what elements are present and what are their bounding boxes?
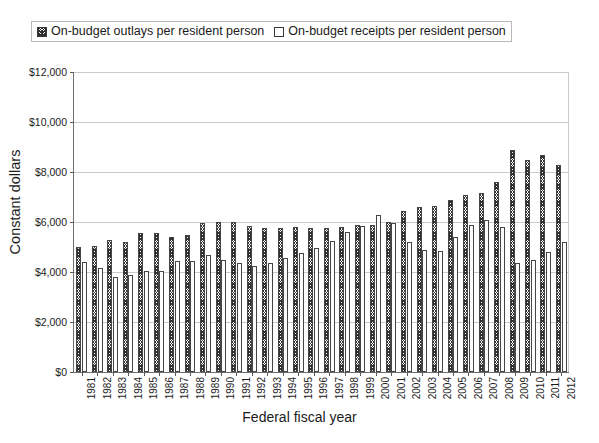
x-axis-tick (422, 372, 423, 376)
x-axis-tick (360, 372, 361, 376)
x-axis-tick-label: 1996 (318, 377, 329, 399)
bar-outlays (216, 222, 221, 372)
y-axis-tick-label: $10,000 (29, 116, 67, 128)
bar-outlays (278, 228, 283, 372)
chart-legend: On-budget outlays per resident person On… (31, 21, 512, 42)
x-axis-tick-label: 2007 (488, 377, 499, 399)
y-axis-tick-label: $4,000 (35, 266, 67, 278)
x-axis-tick-label: 1995 (303, 377, 314, 399)
y-axis-title: Constant dollars (4, 0, 26, 443)
bar-receipts (562, 242, 567, 372)
bar-outlays (417, 207, 422, 372)
bar-receipts (330, 241, 335, 372)
bar-receipts (391, 223, 396, 372)
x-axis-tick-label: 2006 (473, 377, 484, 399)
bar-outlays (107, 240, 112, 373)
x-axis-tick-label: 2011 (550, 377, 561, 399)
bar-receipts (531, 260, 536, 373)
x-axis-tick (407, 372, 408, 376)
bar-receipts (453, 237, 458, 372)
x-axis-tick (468, 372, 469, 376)
x-axis-tick-label: 2009 (519, 377, 530, 399)
legend-item-receipts: On-budget receipts per resident person (274, 25, 506, 38)
x-axis-tick-label: 1992 (256, 377, 267, 399)
x-axis-title: Federal fiscal year (0, 409, 599, 425)
bar-outlays (510, 150, 515, 373)
y-axis-tick (70, 222, 74, 223)
bar-outlays (293, 227, 298, 372)
hatch-swatch-icon (37, 27, 47, 37)
bar-receipts (546, 252, 551, 372)
x-axis-tick (298, 372, 299, 376)
bar-outlays (123, 242, 128, 372)
x-axis-tick-label: 2008 (504, 377, 515, 399)
y-axis-tick-label: $8,000 (35, 166, 67, 178)
x-axis-tick (236, 372, 237, 376)
bar-outlays (169, 237, 174, 372)
bar-receipts (283, 258, 288, 372)
x-axis-tick-label: 2001 (396, 377, 407, 399)
y-axis-tick-label: $0 (55, 366, 67, 378)
y-axis-tick (70, 272, 74, 273)
bar-receipts (98, 268, 103, 372)
x-axis-tick-label: 2002 (411, 377, 422, 399)
bar-outlays (479, 193, 484, 372)
y-axis-tick-label: $12,000 (29, 66, 67, 78)
bar-outlays (355, 225, 360, 373)
gridline (74, 122, 569, 123)
x-axis-tick-label: 1991 (241, 377, 252, 399)
x-axis-tick (345, 372, 346, 376)
x-axis-tick-label: 1998 (349, 377, 360, 399)
bar-receipts (144, 271, 149, 372)
bar-receipts (252, 266, 257, 372)
x-axis-tick (376, 372, 377, 376)
bar-receipts (82, 262, 87, 372)
x-axis-tick (175, 372, 176, 376)
x-axis-tick-label: 1990 (225, 377, 236, 399)
x-axis-tick-label: 1993 (272, 377, 283, 399)
bar-receipts (221, 260, 226, 373)
bar-chart: On-budget outlays per resident person On… (0, 0, 599, 443)
bar-outlays (92, 246, 97, 372)
x-axis-tick-label: 2010 (535, 377, 546, 399)
legend-label-receipts: On-budget receipts per resident person (288, 25, 506, 38)
bar-outlays (339, 227, 344, 372)
x-axis-tick-label: 2000 (380, 377, 391, 399)
x-axis-tick (484, 372, 485, 376)
x-axis-tick (561, 372, 562, 376)
x-axis-tick (546, 372, 547, 376)
empty-swatch-icon (274, 27, 284, 37)
x-axis-tick (438, 372, 439, 376)
x-axis-tick-label: 1988 (195, 377, 206, 399)
bar-outlays (463, 195, 468, 373)
y-axis-tick (70, 72, 74, 73)
x-axis-tick-label: 1999 (365, 377, 376, 399)
x-axis-tick-label: 1983 (117, 377, 128, 399)
bar-outlays (185, 235, 190, 373)
bar-outlays (76, 247, 81, 372)
bar-outlays (262, 228, 267, 372)
bar-outlays (154, 233, 159, 372)
y-axis-tick (70, 322, 74, 323)
x-axis-tick-label: 1997 (334, 377, 345, 399)
bar-receipts (113, 277, 118, 372)
x-axis-tick (499, 372, 500, 376)
bar-outlays (525, 160, 530, 373)
x-axis-tick (267, 372, 268, 376)
bar-receipts (469, 225, 474, 373)
plot-area: $0$2,000$4,000$6,000$8,000$10,000$12,000… (73, 72, 569, 373)
bar-outlays (448, 200, 453, 373)
gridline (74, 72, 569, 73)
x-axis-tick-label: 2005 (457, 377, 468, 399)
x-axis-tick (530, 372, 531, 376)
bar-outlays (401, 211, 406, 372)
x-axis-tick-label: 1986 (164, 377, 175, 399)
bar-receipts (128, 275, 133, 373)
x-axis-tick (128, 372, 129, 376)
bar-outlays (231, 222, 236, 372)
bar-outlays (370, 225, 375, 373)
bar-outlays (432, 206, 437, 372)
bar-receipts (500, 227, 505, 372)
x-axis-tick-label: 1985 (148, 377, 159, 399)
x-axis-tick-label: 2012 (566, 377, 577, 399)
